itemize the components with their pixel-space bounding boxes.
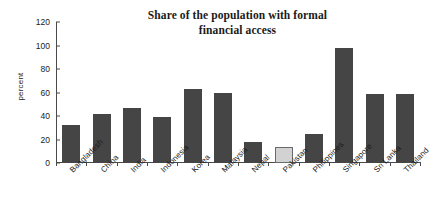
x-axis-tick-mark xyxy=(147,162,148,166)
bar-malaysia xyxy=(214,93,232,164)
y-axis-tick-label: 60 xyxy=(20,88,50,98)
bar-china xyxy=(93,114,111,163)
x-axis-tick-mark xyxy=(238,162,239,166)
y-axis-tick-mark xyxy=(56,45,60,46)
bar-indonesia xyxy=(153,117,171,163)
y-axis-tick-mark xyxy=(56,22,60,23)
x-axis-tick-mark xyxy=(86,162,87,166)
x-axis-tick-mark xyxy=(359,162,360,166)
y-axis-tick-mark xyxy=(56,139,60,140)
y-axis-tick-label: 40 xyxy=(20,111,50,121)
y-axis-tick-label: 0 xyxy=(20,158,50,168)
y-axis-tick-mark xyxy=(56,69,60,70)
y-axis-tick-label: 80 xyxy=(20,64,50,74)
y-axis-tick-label: 120 xyxy=(20,17,50,27)
bar-chart: Share of the population with formal fina… xyxy=(0,0,435,224)
x-axis-tick-mark xyxy=(268,162,269,166)
y-axis-tick-mark xyxy=(56,163,60,164)
y-axis-tick-label: 20 xyxy=(20,135,50,145)
y-axis-tick-mark xyxy=(56,116,60,117)
chart-title-line-1: Share of the population with formal xyxy=(105,8,370,23)
x-axis-tick-mark xyxy=(329,162,330,166)
x-axis-tick-mark xyxy=(177,162,178,166)
y-axis-tick-mark xyxy=(56,92,60,93)
y-axis-tick-label: 100 xyxy=(20,41,50,51)
y-axis-tick-labels: 020406080100120 xyxy=(18,0,50,224)
x-axis-tick-mark xyxy=(420,162,421,166)
bar-india xyxy=(123,108,141,163)
